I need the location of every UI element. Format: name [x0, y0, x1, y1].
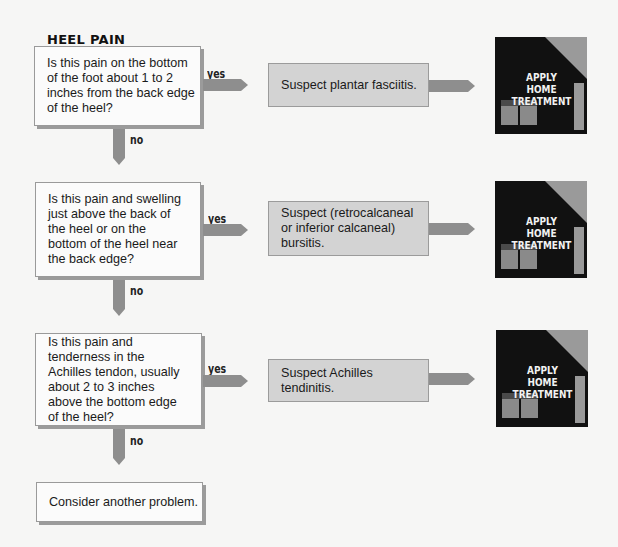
- suspect-box-3: Suspect Achilles tendinitis.: [268, 359, 429, 402]
- suspect-text-1: Suspect plantar fasciitis.: [281, 78, 417, 93]
- action-arrow-1: [429, 80, 476, 92]
- no-label-2: no: [130, 284, 143, 298]
- question-box-3: Is this pain and tenderness in the Achil…: [35, 333, 202, 426]
- question-text-1: Is this pain on the bottom of the foot a…: [47, 56, 197, 116]
- suspect-box-1: Suspect plantar fasciitis.: [268, 63, 429, 107]
- question-text-3: Is this pain and tenderness in the Achil…: [48, 335, 190, 425]
- action-label-3: APPLY HOME TREATMENT: [503, 364, 582, 400]
- suspect-text-3: Suspect Achilles tendinitis.: [281, 366, 428, 396]
- action-arrow-2: [429, 223, 476, 235]
- home-treatment-icon-1: APPLY HOME TREATMENT: [495, 37, 588, 134]
- action-arrow-3: [429, 373, 476, 385]
- chart-title: HEEL PAIN: [47, 32, 125, 47]
- yes-label-3: yes: [208, 362, 226, 376]
- no-label-3: no: [130, 434, 143, 448]
- final-box: Consider another problem.: [36, 482, 203, 522]
- home-treatment-icon-3: APPLY HOME TREATMENT: [496, 330, 589, 427]
- no-label-1: no: [130, 133, 143, 147]
- question-box-2: Is this pain and swelling just above the…: [35, 182, 201, 277]
- action-label-1: APPLY HOME TREATMENT: [502, 71, 581, 107]
- no-arrow-3: [113, 429, 125, 466]
- final-text: Consider another problem.: [49, 495, 198, 510]
- question-text-2: Is this pain and swelling just above the…: [48, 192, 188, 267]
- action-label-2: APPLY HOME TREATMENT: [502, 215, 581, 251]
- suspect-text-2: Suspect (retrocalcaneal or inferior calc…: [281, 206, 421, 251]
- no-arrow-1: [113, 129, 125, 166]
- yes-arrow-3: [203, 375, 249, 387]
- no-arrow-2: [113, 280, 125, 317]
- yes-arrow-2: [203, 224, 249, 236]
- question-box-1: Is this pain on the bottom of the foot a…: [34, 46, 201, 126]
- yes-arrow-1: [203, 79, 249, 91]
- suspect-box-2: Suspect (retrocalcaneal or inferior calc…: [268, 201, 429, 256]
- home-treatment-icon-2: APPLY HOME TREATMENT: [495, 181, 588, 278]
